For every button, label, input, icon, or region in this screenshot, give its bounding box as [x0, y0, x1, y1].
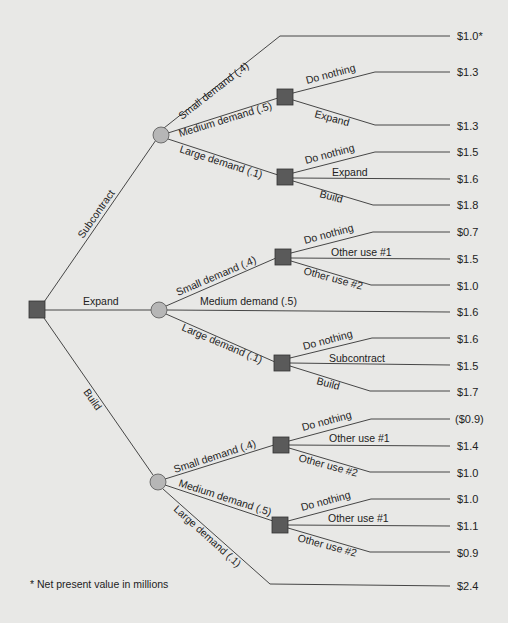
label-bld-med-use2: Other use #2 [296, 531, 358, 558]
label-exp-medium: Medium demand (.5) [200, 295, 297, 307]
payoff: ($0.9) [455, 413, 484, 425]
payoff: $1.4 [457, 440, 478, 452]
label-exp-lg-build: Build [315, 374, 341, 392]
payoff: $1.1 [457, 520, 478, 532]
decision-tree-diagram: Subcontract Expand Build Small demand (.… [0, 0, 508, 623]
sub-large-decision-node [277, 169, 293, 185]
label-bld-sm-use1: Other use #1 [329, 432, 390, 444]
label-expand: Expand [83, 295, 119, 307]
bld-small-decision-node [273, 437, 289, 453]
payoff: $1.3 [457, 120, 478, 132]
label-bld-sm-donothing: Do nothing [300, 408, 352, 433]
payoff: $1.8 [457, 199, 478, 211]
payoff: $1.5 [457, 360, 478, 372]
edge-exp-medium [167, 310, 450, 312]
label-bld-medium: Medium demand (.5) [177, 476, 273, 517]
label-bld-large: Large demand (.1) [172, 503, 244, 570]
edge-exp-lg-build [290, 366, 450, 391]
label-exp-small: Small demand (.4) [174, 253, 258, 298]
payoff: $1.6 [457, 306, 478, 318]
label-sub-med-expand: Expand [313, 107, 351, 128]
payoff: $1.0 [457, 493, 478, 505]
payoff: $0.9 [457, 547, 478, 559]
label-subcontract: Subcontract [75, 187, 117, 240]
payoff: $1.0 [457, 280, 478, 292]
bld-medium-decision-node [272, 517, 288, 533]
subcontract-chance-node [153, 127, 169, 143]
edge-exp-sm-use1 [291, 258, 450, 259]
payoff: $1.7 [457, 386, 478, 398]
edge-subcontract [44, 140, 156, 302]
label-exp-large: Large demand (.1) [180, 321, 264, 366]
label-bld-sm-use2: Other use #2 [297, 451, 359, 478]
label-exp-sm-use1: Other use #1 [331, 246, 392, 258]
label-exp-sm-use2: Other use #2 [302, 264, 364, 291]
payoff: $1.6 [457, 333, 478, 345]
label-sub-med-donothing: Do nothing [304, 61, 356, 86]
label-sub-lg-donothing: Do nothing [303, 141, 355, 166]
edge-sub-lg-build [293, 181, 450, 205]
edge-bld-med-use1 [288, 525, 450, 526]
expand-chance-node [151, 302, 167, 318]
root-decision-node [29, 301, 45, 318]
payoff: $1.5 [457, 253, 478, 265]
decision-tree-svg: Subcontract Expand Build Small demand (.… [0, 0, 508, 623]
label-exp-lg-donothing: Do nothing [301, 327, 353, 352]
label-sub-large: Large demand (.1) [178, 142, 264, 180]
label-exp-sm-donothing: Do nothing [302, 221, 354, 246]
payoff: $1.5 [457, 146, 478, 158]
payoff: $1.0 [457, 467, 478, 479]
payoff: $1.6 [457, 173, 478, 185]
label-bld-med-donothing: Do nothing [299, 488, 351, 513]
label-sub-lg-build: Build [318, 187, 344, 205]
exp-large-decision-node [274, 355, 290, 371]
edge-bld-sm-use1 [289, 445, 450, 446]
label-bld-med-use1: Other use #1 [328, 512, 389, 524]
payoff: $1.3 [457, 66, 478, 78]
footnote: * Net present value in millions [30, 578, 168, 590]
label-sub-lg-expand: Expand [332, 166, 368, 178]
payoff: $2.4 [457, 580, 478, 592]
build-chance-node [150, 474, 166, 490]
payoff: $1.0* [457, 30, 483, 42]
edge-sub-lg-expand [293, 178, 450, 179]
label-bld-small: Small demand (.4) [172, 437, 257, 475]
label-build: Build [81, 386, 104, 412]
exp-small-decision-node [275, 249, 291, 265]
payoff: $0.7 [457, 226, 478, 238]
sub-medium-decision-node [277, 89, 293, 105]
label-exp-lg-subcontract: Subcontract [329, 352, 385, 364]
